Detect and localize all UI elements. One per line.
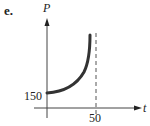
y-axis-arrow-icon	[45, 18, 50, 26]
curve-P	[47, 35, 90, 93]
x-axis-label: t	[143, 101, 147, 115]
y-axis-label: P	[42, 1, 51, 15]
x-axis-arrow-icon	[134, 106, 142, 111]
x-tick-label: 50	[89, 111, 101, 125]
y-intercept-label: 150	[24, 89, 42, 103]
chart: P t 150 50	[0, 0, 150, 126]
